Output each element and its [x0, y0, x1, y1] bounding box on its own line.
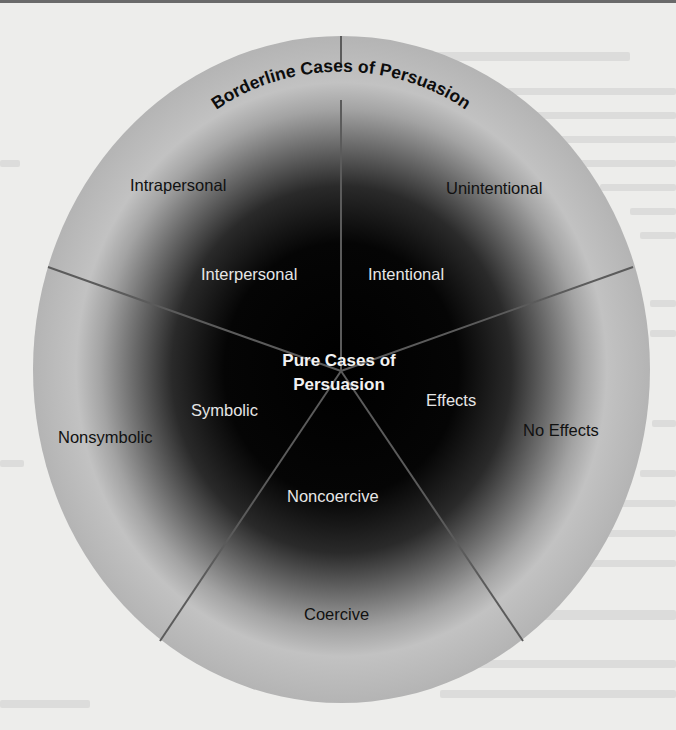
textbook-page: Borderline Cases of Persuasion Intrapers… [0, 0, 676, 730]
label-coercive: Coercive [304, 605, 369, 623]
center-label-line1: Pure Cases of [282, 351, 396, 370]
label-intrapersonal: Intrapersonal [130, 176, 226, 194]
label-unintentional: Unintentional [446, 179, 542, 197]
center-label-line2: Persuasion [293, 375, 385, 394]
label-nonsymbolic: Nonsymbolic [58, 428, 152, 446]
label-interpersonal: Interpersonal [201, 265, 297, 283]
label-noncoercive: Noncoercive [287, 487, 379, 505]
persuasion-diagram: Borderline Cases of Persuasion Intrapers… [0, 0, 676, 730]
label-no-effects: No Effects [523, 421, 599, 439]
label-effects: Effects [426, 391, 476, 409]
label-symbolic: Symbolic [191, 401, 258, 419]
label-intentional: Intentional [368, 265, 444, 283]
